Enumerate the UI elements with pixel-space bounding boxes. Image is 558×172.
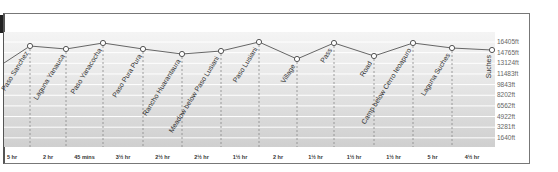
waypoint-marker[interactable] xyxy=(63,46,68,51)
segment-time-label: 2 hr xyxy=(273,153,283,161)
waypoint-marker[interactable] xyxy=(331,40,336,45)
waypoint-marker[interactable] xyxy=(256,39,261,44)
waypoint-marker[interactable] xyxy=(140,46,145,51)
y-tick-label: 13124ft xyxy=(497,59,519,67)
waypoint-marker[interactable] xyxy=(410,40,415,45)
y-tick-label: 8202ft xyxy=(497,91,515,99)
segment-time-label: 2½ hr xyxy=(194,153,209,161)
waypoint-marker[interactable] xyxy=(371,53,376,58)
elevation-chart-svg xyxy=(0,0,558,172)
waypoint-label: Suches xyxy=(485,55,493,78)
segment-time-label: 2 hr xyxy=(43,153,53,161)
waypoint-marker[interactable] xyxy=(100,40,105,45)
waypoint-marker[interactable] xyxy=(489,47,494,52)
segment-time-label: 45 mins xyxy=(74,153,94,161)
segment-time-label: 1½ hr xyxy=(308,153,323,161)
segment-time-label: 4½ hr xyxy=(465,153,480,161)
segment-time-label: 1½ hr xyxy=(386,153,401,161)
segment-time-label: 1½ hr xyxy=(347,153,362,161)
waypoint-marker[interactable] xyxy=(218,48,223,53)
waypoint-marker[interactable] xyxy=(179,51,184,56)
y-tick-label: 6562ft xyxy=(497,102,515,110)
waypoint-marker[interactable] xyxy=(27,43,32,48)
segment-time-label: 3½ hr xyxy=(116,153,131,161)
y-tick-label: 1640ft xyxy=(497,134,515,142)
segment-time-label: 5 hr xyxy=(7,153,17,161)
y-tick-label: 4922ft xyxy=(497,113,515,121)
y-tick-label: 14765ft xyxy=(497,49,519,57)
segment-time-label: 1½ hr xyxy=(233,153,248,161)
segment-time-label: 5 hr xyxy=(427,153,437,161)
y-tick-label: 9843ft xyxy=(497,81,515,89)
y-tick-label: 11483ft xyxy=(497,70,518,78)
waypoint-marker[interactable] xyxy=(294,56,299,61)
y-tick-label: 16405ft xyxy=(497,38,519,46)
y-tick-label: 3281ft xyxy=(497,123,515,131)
segment-time-label: 2½ hr xyxy=(155,153,170,161)
waypoint-marker[interactable] xyxy=(449,45,454,50)
